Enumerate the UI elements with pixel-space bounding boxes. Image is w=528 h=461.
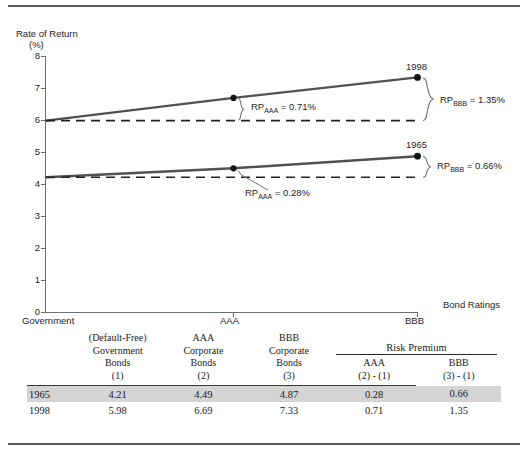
series-line-1965 — [46, 153, 421, 178]
risk-premium-subheaders: AAA (2) - (1) BBB (3) - (1) — [332, 357, 501, 382]
header-risk-premium-group-cell: Risk Premium AAA (2) - (1) BBB (3) - (1) — [332, 332, 501, 382]
header-aaa-corporate-bonds-line2: Corporate — [161, 345, 247, 358]
table-header: (Default-Free) Government Bonds (1) AAA … — [27, 332, 501, 386]
leader-line-rp-aaa-1965 — [238, 171, 268, 191]
header-aaa-corporate-bonds-line3: Bonds — [161, 357, 247, 370]
header-bbb-corporate-bonds-line1: BBB — [246, 332, 332, 345]
header-aaa-corporate-bonds: AAA Corporate Bonds (2) — [161, 332, 247, 382]
data-point-1965-bbb — [414, 153, 421, 160]
cell-rp-aaa: 0.71 — [332, 402, 417, 418]
cell-year: 1965 — [27, 386, 75, 403]
table-body: 1965 4.21 4.49 4.87 0.28 0.66 1998 5.98 … — [27, 386, 501, 419]
data-point-1965-aaa — [230, 165, 236, 171]
header-aaa-corporate-bonds-line4: (2) — [161, 370, 247, 383]
data-point-1998-aaa — [230, 95, 236, 101]
header-government-bonds-line2: Government — [75, 345, 161, 358]
header-government-bonds-line1: (Default-Free) — [75, 332, 161, 345]
bottom-divider-rule — [8, 443, 520, 445]
header-aaa-corporate-bonds-line1: AAA — [161, 332, 247, 345]
header-risk-premium-group-label: Risk Premium — [332, 342, 501, 354]
header-risk-premium-aaa: AAA (2) - (1) — [332, 357, 417, 382]
header-government-bonds-line3: Bonds — [75, 357, 161, 370]
header-government-bonds-line4: (1) — [75, 370, 161, 383]
header-risk-premium-aaa-line2: (2) - (1) — [332, 370, 417, 383]
cell-bbb: 4.87 — [246, 386, 332, 403]
cell-aaa: 4.49 — [161, 386, 247, 403]
cell-rp-bbb: 0.66 — [416, 386, 501, 403]
header-risk-premium-bbb: BBB (3) - (1) — [416, 357, 501, 382]
cell-gov: 4.21 — [75, 386, 161, 403]
table-row: 1998 5.98 6.69 7.33 0.71 1.35 — [27, 402, 501, 418]
cell-bbb: 7.33 — [246, 402, 332, 418]
table-row: 1965 4.21 4.49 4.87 0.28 0.66 — [27, 386, 501, 403]
header-government-bonds: (Default-Free) Government Bonds (1) — [75, 332, 161, 382]
cell-aaa: 6.69 — [161, 402, 247, 418]
header-bbb-corporate-bonds-line2: Corporate — [246, 345, 332, 358]
data-point-1998-bbb — [414, 74, 421, 81]
chart-plot-svg — [0, 0, 528, 330]
header-bbb-corporate-bonds-line4: (3) — [246, 370, 332, 383]
risk-premium-group-rule — [336, 354, 497, 355]
axis-lines — [45, 56, 418, 313]
header-risk-premium-bbb-line2: (3) - (1) — [416, 370, 501, 383]
brace-rp-aaa-1998 — [239, 99, 244, 121]
series-line-1998 — [46, 74, 421, 121]
table-header-row: (Default-Free) Government Bonds (1) AAA … — [27, 332, 501, 382]
y-axis-ticks — [41, 57, 45, 313]
header-year-col — [27, 332, 75, 382]
cell-rp-bbb: 1.35 — [416, 402, 501, 418]
brace-rp-bbb-1965 — [423, 157, 431, 178]
table-panel: (Default-Free) Government Bonds (1) AAA … — [0, 330, 528, 461]
brace-rp-bbb-1998 — [423, 78, 433, 121]
cell-rp-aaa: 0.28 — [332, 386, 417, 403]
header-risk-premium-aaa-line1: AAA — [332, 357, 417, 370]
cell-year: 1998 — [27, 402, 75, 418]
header-risk-premium-bbb-line1: BBB — [416, 357, 501, 370]
cell-gov: 5.98 — [75, 402, 161, 418]
chart-panel: Rate of Return (%) Bond Ratings 8 7 6 5 … — [0, 0, 528, 330]
bond-rates-table: (Default-Free) Government Bonds (1) AAA … — [27, 332, 501, 418]
header-bbb-corporate-bonds-line3: Bonds — [246, 357, 332, 370]
header-bbb-corporate-bonds: BBB Corporate Bonds (3) — [246, 332, 332, 382]
